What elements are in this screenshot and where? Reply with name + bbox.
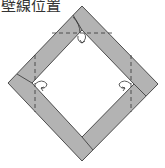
folded-frame-diagram — [0, 0, 165, 168]
top-fold-arrow-icon — [78, 33, 86, 43]
